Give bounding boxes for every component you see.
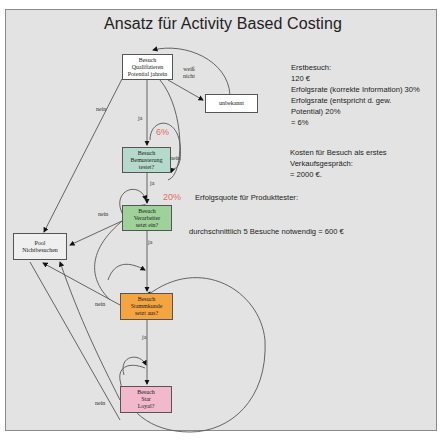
note-average-visits: durchschnittlich 5 Besuche notwendig = 6… <box>189 226 344 237</box>
edge-label-nein-top: nein <box>96 106 106 113</box>
edge-label-ja-2: ja <box>150 180 154 187</box>
node-regular[interactable]: Besuch Stammkunde setzt aus? <box>120 293 173 320</box>
edge-label-nein-star: nein <box>95 400 105 407</box>
node-sample[interactable]: Besuch Bemusterung testet? <box>122 147 171 173</box>
edge-label-ja-4: ja <box>142 334 146 341</box>
node-processor[interactable]: Besuch Verarbeiter setzt ein? <box>122 205 172 231</box>
edge-label-nein-regular: nein <box>95 301 105 308</box>
edge-label-nein-sample: nein <box>170 155 180 162</box>
edge-label-nein-processor: nein <box>98 211 108 218</box>
edge-label-weiss-nicht: weiß nicht <box>183 66 195 80</box>
note-success-rate-tester: Erfolgsquote für Produkttester: <box>195 192 298 203</box>
node-star[interactable]: Besuch Star Loyal? <box>120 386 172 413</box>
note-cost-first-sales: Kosten für Besuch als erstes Verkaufsges… <box>290 147 387 180</box>
percentage-processor: 20% <box>163 192 181 202</box>
node-qualify[interactable]: Besuch Qualifizieren Potential jahrein <box>122 54 173 80</box>
edge-label-ja-1: ja <box>138 115 142 122</box>
percentage-sample: 6% <box>156 127 169 137</box>
node-unknown[interactable]: unbekannt <box>205 94 258 113</box>
note-first-visit: Erstbesuch: 120 € Erfolgsrate (korrekte … <box>291 62 420 128</box>
edge-label-ja-3: ja <box>148 239 152 246</box>
node-pool[interactable]: Pool Nichtbesuchen <box>13 233 67 260</box>
